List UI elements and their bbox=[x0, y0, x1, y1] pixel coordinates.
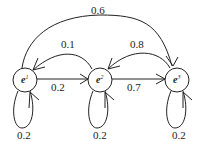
edge-label-e2-self: 0.2 bbox=[93, 129, 107, 141]
edge-e1-e3 bbox=[22, 15, 172, 68]
edge-label-e2-e3: 0.7 bbox=[127, 81, 141, 93]
edge-label-e1-e2: 0.2 bbox=[51, 81, 65, 93]
edge-label-e3-self: 0.2 bbox=[172, 129, 186, 141]
edge-label-e1-e3: 0.6 bbox=[91, 4, 105, 16]
edge-label-e3-e2: 0.8 bbox=[130, 38, 144, 50]
markov-chain-diagram: e1 e2 e3 0.6 0.1 0.8 0.2 0.7 0.2 0.2 0.2 bbox=[0, 0, 206, 141]
edge-label-e2-e1: 0.1 bbox=[61, 38, 75, 50]
edge-label-e1-self: 0.2 bbox=[17, 129, 31, 141]
